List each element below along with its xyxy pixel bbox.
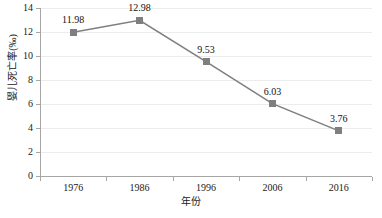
x-tick: [372, 177, 373, 181]
data-point-marker: [70, 29, 77, 36]
x-tick-label: 2006: [242, 182, 302, 193]
data-point-label: 11.98: [47, 14, 99, 25]
x-tick: [239, 177, 240, 181]
y-tick-label: 14: [11, 3, 33, 13]
y-tick: [36, 104, 40, 105]
y-axis-line: [40, 8, 41, 177]
y-tick: [36, 152, 40, 153]
grid-line: [40, 104, 372, 105]
y-tick-label: 4: [11, 123, 33, 133]
grid-line: [40, 152, 372, 153]
data-point-label: 3.76: [313, 113, 365, 124]
x-tick: [306, 177, 307, 181]
x-tick-label: 2016: [309, 182, 369, 193]
data-point-label: 9.53: [180, 44, 232, 55]
y-tick: [36, 56, 40, 57]
y-tick: [36, 8, 40, 9]
x-tick-label: 1996: [176, 182, 236, 193]
y-axis-title: 婴儿死亡率(‰): [7, 13, 18, 123]
data-point-label: 6.03: [246, 86, 298, 97]
y-tick: [36, 128, 40, 129]
x-tick-label: 1976: [43, 182, 103, 193]
data-point-marker: [335, 127, 342, 134]
data-point-marker: [269, 100, 276, 107]
grid-line: [40, 32, 372, 33]
grid-line: [40, 80, 372, 81]
x-tick: [106, 177, 107, 181]
x-tick: [173, 177, 174, 181]
y-tick: [36, 80, 40, 81]
plot-area: [40, 8, 372, 176]
y-tick-label: 2: [11, 147, 33, 157]
data-point-label: 12.98: [114, 2, 166, 13]
x-tick-label: 1986: [110, 182, 170, 193]
grid-line: [40, 56, 372, 57]
x-tick: [40, 177, 41, 181]
data-point-marker: [203, 58, 210, 65]
y-tick-label: 0: [11, 171, 33, 181]
grid-line: [40, 8, 372, 9]
data-point-marker: [136, 17, 143, 24]
x-axis-title: 年份: [0, 196, 382, 208]
infant-mortality-line-chart: 02468101214 19761986199620062016 11.9812…: [0, 0, 382, 218]
grid-line: [40, 128, 372, 129]
y-tick: [36, 32, 40, 33]
x-axis-line: [40, 176, 372, 177]
